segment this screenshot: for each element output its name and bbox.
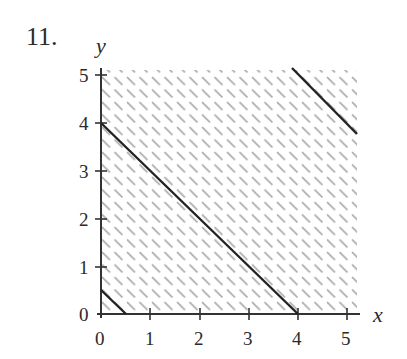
x-tick-label-4: 4 — [292, 328, 302, 349]
y-tick-label-4: 4 — [79, 113, 89, 134]
y-tick-label-3: 3 — [79, 161, 89, 182]
y-axis-label: y — [94, 33, 106, 58]
y-tick-label-2: 2 — [79, 209, 89, 230]
x-tick-label-0: 0 — [95, 328, 105, 349]
y-tick-label-0: 0 — [79, 304, 89, 325]
x-tick-label-2: 2 — [194, 328, 204, 349]
hatched-region — [101, 70, 357, 314]
x-tick-label-3: 3 — [243, 328, 253, 349]
x-tick-label-1: 1 — [145, 328, 155, 349]
y-tick-label-5: 5 — [79, 65, 89, 86]
x-tick-label-5: 5 — [341, 328, 351, 349]
chart: 5 4 3 2 1 0 0 1 2 3 4 5 y x — [0, 0, 407, 359]
y-tick-label-1: 1 — [79, 257, 89, 278]
x-axis-label: x — [372, 302, 383, 327]
